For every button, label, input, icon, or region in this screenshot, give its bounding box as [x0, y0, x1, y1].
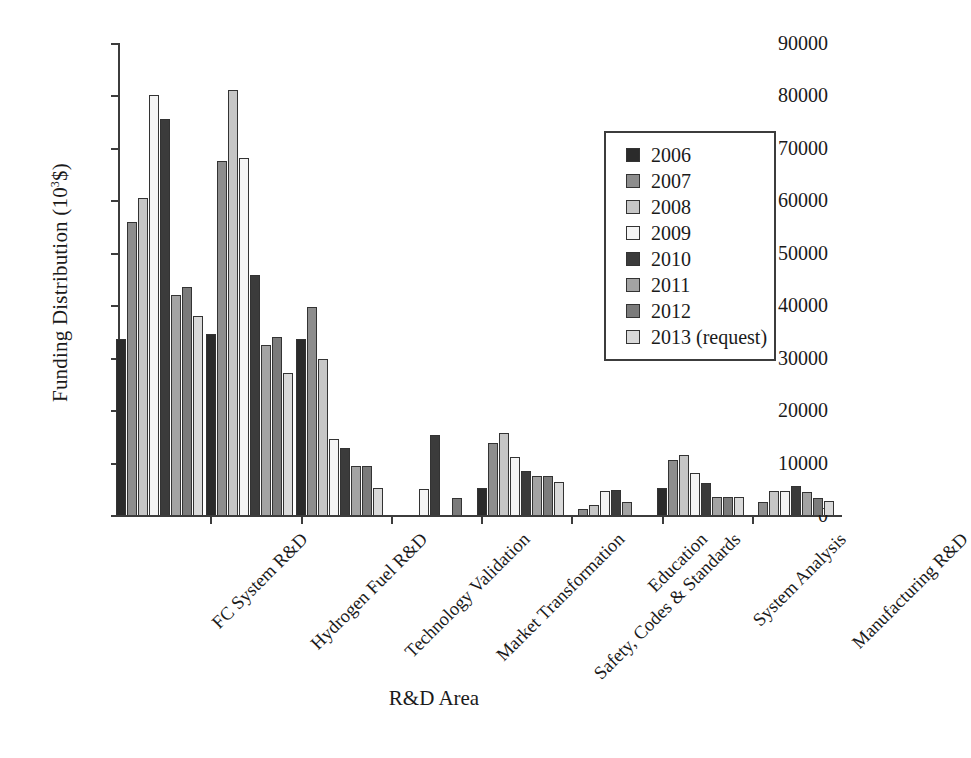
legend-item-label: 2007	[651, 171, 691, 191]
bar-group	[386, 43, 473, 515]
bar-2009	[690, 473, 700, 515]
x-axis-tick	[391, 515, 393, 524]
bar-2007	[127, 222, 137, 515]
legend-item: 2006	[606, 142, 774, 168]
bar-2013-request-	[734, 497, 744, 515]
y-axis-title-exponent: 3	[48, 181, 62, 187]
bar-2011	[171, 295, 181, 515]
bar-2006	[477, 488, 487, 515]
chart-legend: 20062007200820092010201120122013 (reques…	[604, 131, 776, 361]
bar-2011	[351, 466, 361, 515]
bar-2009	[149, 95, 159, 515]
bar-2008	[679, 455, 689, 515]
bar-2007	[578, 509, 588, 515]
legend-item-label: 2006	[651, 145, 691, 165]
bar-2012	[272, 337, 282, 515]
bar-group	[477, 43, 564, 515]
legend-item: 2010	[606, 246, 774, 272]
legend-swatch-icon	[626, 148, 640, 162]
bar-2008	[318, 359, 328, 515]
bar-2009	[510, 457, 520, 515]
bar-2010	[521, 471, 531, 515]
bar-2012	[362, 466, 372, 515]
legend-swatch-icon	[626, 226, 640, 240]
x-axis-category-label: System Analysis	[749, 529, 851, 631]
bar-2010	[430, 435, 440, 515]
x-axis-tick	[571, 515, 573, 524]
bar-2010	[701, 483, 711, 516]
bar-2012	[182, 287, 192, 515]
x-axis-category-label: Manufacturing R&D	[848, 529, 971, 653]
legend-item-label: 2011	[651, 275, 690, 295]
bar-2012	[543, 476, 553, 515]
x-axis-tick	[481, 515, 483, 524]
legend-item-label: 2009	[651, 223, 691, 243]
bar-2010	[250, 275, 260, 515]
bar-2008	[589, 505, 599, 515]
y-axis-title-prefix: Funding Distribution (10	[48, 187, 72, 402]
bar-2007	[668, 460, 678, 515]
legend-item: 2008	[606, 194, 774, 220]
bar-2007	[217, 161, 227, 515]
bar-2009	[239, 158, 249, 515]
bar-2008	[228, 90, 238, 515]
legend-item: 2011	[606, 272, 774, 298]
legend-item-label: 2008	[651, 197, 691, 217]
bar-2013-request-	[824, 501, 834, 515]
x-axis-category-label: FC System R&D	[208, 529, 312, 633]
bar-group	[296, 43, 383, 515]
bar-2013-request-	[193, 316, 203, 515]
legend-item: 2013 (request)	[606, 324, 774, 350]
legend-item-label: 2010	[651, 249, 691, 269]
bar-2006	[116, 339, 126, 515]
bar-2012	[452, 498, 462, 515]
y-axis-title-suffix: $)	[48, 163, 72, 181]
bar-2012	[813, 498, 823, 515]
bar-2007	[758, 502, 768, 515]
bar-2010	[340, 448, 350, 515]
bar-2013-request-	[283, 373, 293, 515]
bar-2007	[488, 443, 498, 515]
x-axis-tick	[301, 515, 303, 524]
bar-2010	[791, 486, 801, 515]
bar-2006	[296, 339, 306, 515]
bar-group	[116, 43, 203, 515]
y-axis-title: Funding Distribution (103$)	[48, 73, 73, 493]
bar-group	[206, 43, 293, 515]
x-axis-tick	[210, 515, 212, 524]
legend-swatch-icon	[626, 304, 640, 318]
legend-item-label: 2012	[651, 301, 691, 321]
bar-2011	[532, 476, 542, 515]
legend-swatch-icon	[626, 200, 640, 214]
x-axis-tick	[662, 515, 664, 524]
bar-2009	[600, 491, 610, 515]
bar-2006	[206, 334, 216, 515]
bar-2009	[419, 489, 429, 515]
bar-2010	[611, 490, 621, 515]
bar-2013-request-	[373, 488, 383, 515]
bar-2006	[657, 488, 667, 515]
legend-item: 2009	[606, 220, 774, 246]
bar-2011	[622, 502, 632, 515]
bar-2007	[307, 307, 317, 515]
bar-2008	[499, 433, 509, 515]
legend-item-label: 2013 (request)	[651, 327, 767, 347]
x-axis-title: R&D Area	[0, 686, 868, 711]
bar-2012	[723, 497, 733, 515]
legend-swatch-icon	[626, 252, 640, 266]
legend-swatch-icon	[626, 278, 640, 292]
legend-item: 2007	[606, 168, 774, 194]
bar-2011	[712, 497, 722, 515]
bar-2013-request-	[554, 482, 564, 515]
legend-swatch-icon	[626, 174, 640, 188]
legend-swatch-icon	[626, 330, 640, 344]
bar-2008	[769, 491, 779, 515]
x-axis-tick	[752, 515, 754, 524]
bar-2010	[160, 119, 170, 515]
bar-2009	[329, 439, 339, 515]
bar-2009	[780, 491, 790, 515]
bar-2011	[261, 345, 271, 515]
y-axis-tick	[111, 515, 120, 517]
bar-2008	[138, 198, 148, 515]
